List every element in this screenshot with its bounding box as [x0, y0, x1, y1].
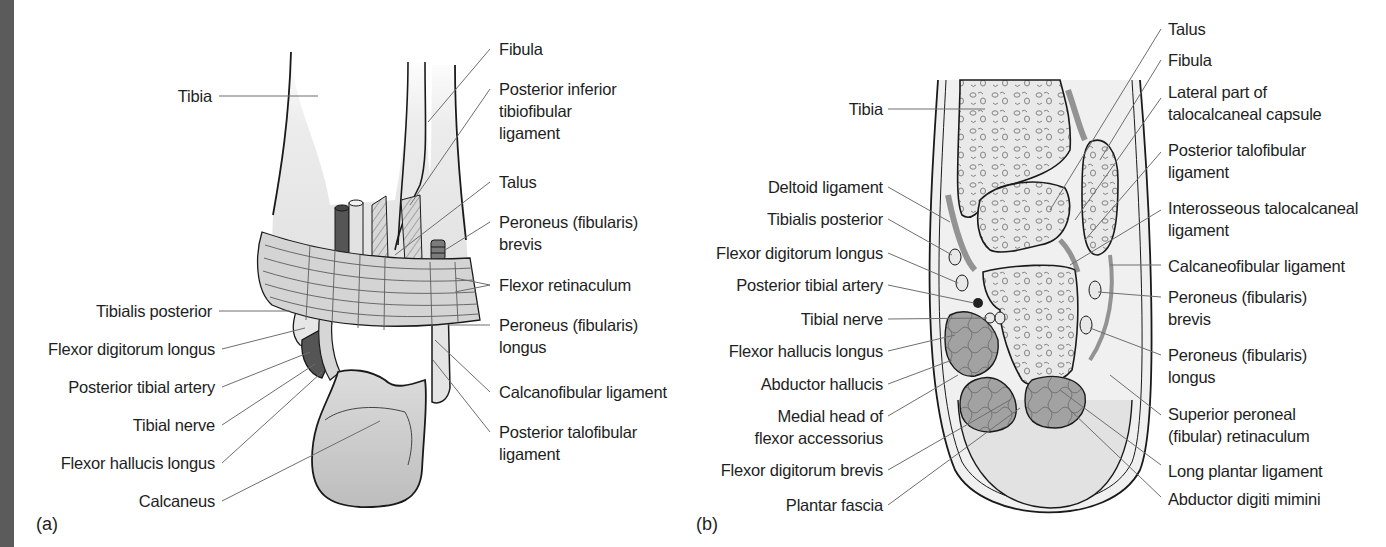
label-b-calcaneofibular-ligament: Calcaneofibular ligament	[1168, 255, 1345, 277]
label-b-talus: Talus	[1168, 18, 1206, 40]
label-line: ligament	[499, 122, 616, 144]
label-line: brevis	[1168, 308, 1307, 330]
label-a-tibia: Tibia	[178, 85, 212, 107]
label-line: Posterior inferior	[499, 78, 616, 100]
panel-a-id: (a)	[36, 514, 58, 535]
label-b-tibialis-posterior: Tibialis posterior	[767, 208, 883, 230]
label-line: Peroneus (fibularis)	[1168, 286, 1307, 308]
label-line: ligament	[1168, 219, 1358, 241]
label-b-peroneus-longus: Peroneus (fibularis) longus	[1168, 344, 1307, 388]
label-b-flexor-digitorum-longus: Flexor digitorum longus	[716, 242, 883, 264]
label-b-tibia: Tibia	[849, 98, 883, 120]
label-b-abductor-hallucis: Abductor hallucis	[761, 373, 883, 395]
label-line: talocalcaneal capsule	[1168, 103, 1322, 125]
label-line: Peroneus (fibularis)	[499, 211, 638, 233]
label-line: Medial head of	[755, 405, 883, 427]
panel-a-drawing	[219, 49, 490, 507]
label-b-peroneus-brevis: Peroneus (fibularis) brevis	[1168, 286, 1307, 330]
label-line: longus	[499, 336, 638, 358]
label-line: Interosseous talocalcaneal	[1168, 197, 1358, 219]
label-b-interosseous-talocalcaneal-ligament: Interosseous talocalcaneal ligament	[1168, 197, 1358, 241]
label-b-posterior-talofibular-ligament: Posterior talofibular ligament	[1168, 139, 1306, 183]
label-b-long-plantar-ligament: Long plantar ligament	[1168, 460, 1323, 482]
label-line: Superior peroneal	[1168, 403, 1310, 425]
label-line: (fibular) retinaculum	[1168, 425, 1310, 447]
label-line: ligament	[1168, 161, 1306, 183]
label-b-flexor-hallucis-longus: Flexor hallucis longus	[729, 340, 883, 362]
label-line: flexor accessorius	[755, 427, 883, 449]
label-a-flexor-digitorum-longus: Flexor digitorum longus	[48, 338, 215, 360]
label-a-talus: Talus	[499, 171, 537, 193]
label-line: tibiofibular	[499, 100, 616, 122]
label-line: brevis	[499, 233, 638, 255]
label-a-tibialis-posterior: Tibialis posterior	[96, 300, 212, 322]
label-b-medial-head-flexor-accessorius: Medial head of flexor accessorius	[755, 405, 883, 449]
label-a-peroneus-brevis: Peroneus (fibularis) brevis	[499, 211, 638, 255]
label-b-tibial-nerve: Tibial nerve	[801, 308, 883, 330]
label-b-posterior-tibial-artery: Posterior tibial artery	[736, 274, 883, 296]
label-line: Peroneus (fibularis)	[499, 314, 638, 336]
label-b-deltoid-ligament: Deltoid ligament	[768, 176, 883, 198]
label-b-fibula: Fibula	[1168, 49, 1212, 71]
label-a-peroneus-longus: Peroneus (fibularis) longus	[499, 314, 638, 358]
label-line: Posterior talofibular	[1168, 139, 1306, 161]
label-line: Peroneus (fibularis)	[1168, 344, 1307, 366]
label-b-superior-peroneal-retinaculum: Superior peroneal (fibular) retinaculum	[1168, 403, 1310, 447]
label-a-flexor-hallucis-longus: Flexor hallucis longus	[61, 452, 215, 474]
label-b-plantar-fascia: Plantar fascia	[786, 494, 883, 516]
panel-b-id: (b)	[696, 514, 718, 535]
label-a-fibula: Fibula	[499, 38, 543, 60]
label-a-posterior-talofibular-ligament: Posterior talofibular ligament	[499, 421, 637, 465]
label-line: longus	[1168, 366, 1307, 388]
label-line: Lateral part of	[1168, 81, 1322, 103]
label-a-posterior-inferior-tibiofibular-ligament: Posterior inferior tibiofibular ligament	[499, 78, 616, 144]
label-b-flexor-digitorum-brevis: Flexor digitorum brevis	[721, 459, 883, 481]
label-a-calcanofibular-ligament: Calcanofibular ligament	[499, 381, 667, 403]
label-a-flexor-retinaculum: Flexor retinaculum	[499, 274, 631, 296]
label-line: Posterior talofibular	[499, 421, 637, 443]
label-b-abductor-digiti-mimini: Abductor digiti mimini	[1168, 488, 1320, 510]
panel-b-drawing	[888, 29, 1161, 512]
label-a-calcaneus: Calcaneus	[139, 490, 215, 512]
label-a-tibial-nerve: Tibial nerve	[133, 414, 215, 436]
label-a-posterior-tibial-artery: Posterior tibial artery	[68, 376, 215, 398]
label-line: ligament	[499, 443, 637, 465]
label-b-lateral-talocalcaneal-capsule: Lateral part of talocalcaneal capsule	[1168, 81, 1322, 125]
